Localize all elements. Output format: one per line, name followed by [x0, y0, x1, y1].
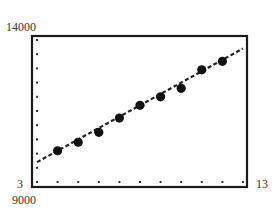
y-tick-dot: [36, 53, 38, 55]
data-point: [94, 128, 103, 137]
x-tick-dot: [221, 181, 223, 183]
y-tick-dot: [36, 110, 38, 112]
y-tick-dot: [36, 82, 38, 84]
y-axis-max-label: 14000: [6, 21, 36, 33]
y-tick-dot: [36, 153, 38, 155]
y-tick-dot: [36, 39, 38, 41]
data-point: [115, 114, 124, 123]
data-point: [156, 92, 165, 101]
y-tick-dot: [36, 181, 38, 183]
data-point: [218, 57, 227, 66]
x-tick-dot: [242, 181, 244, 183]
y-tick-dot: [36, 67, 38, 69]
data-point: [74, 138, 83, 147]
x-tick-dot: [160, 181, 162, 183]
data-point: [177, 84, 186, 93]
x-axis-min-label: 3: [17, 178, 23, 190]
x-tick-dot: [201, 181, 203, 183]
y-tick-dot: [36, 167, 38, 169]
x-tick-dot: [98, 181, 100, 183]
x-axis-max-label: 13: [256, 178, 268, 190]
y-tick-dot: [36, 96, 38, 98]
data-point: [53, 146, 62, 155]
y-axis-min-label: 9000: [12, 194, 36, 206]
scatter-plot: [0, 0, 275, 212]
plot-frame: [32, 36, 247, 187]
x-tick-dot: [57, 181, 59, 183]
y-tick-dot: [36, 124, 38, 126]
x-tick-dot: [77, 181, 79, 183]
data-point: [197, 65, 206, 74]
x-tick-dot: [139, 181, 141, 183]
x-tick-dot: [118, 181, 120, 183]
x-tick-dot: [180, 181, 182, 183]
data-point: [135, 101, 144, 110]
y-tick-dot: [36, 138, 38, 140]
